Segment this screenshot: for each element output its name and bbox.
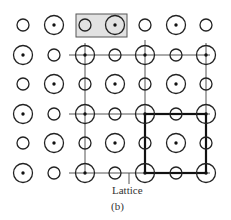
atom-center-dot (83, 112, 86, 115)
atom-center-dot (83, 53, 86, 56)
atom-center-dot (204, 53, 207, 56)
small-atom (139, 19, 151, 31)
atom-center-dot (52, 23, 55, 26)
atom-center-dot (174, 23, 177, 26)
atom-center-dot (52, 82, 55, 85)
small-atom (17, 78, 29, 90)
small-atom (200, 19, 212, 31)
atoms (14, 16, 216, 183)
small-atom (17, 19, 29, 31)
atom-center-dot (52, 141, 55, 144)
atom-center-dot (143, 112, 146, 115)
figure-caption: (b) (111, 200, 124, 212)
atom-center-dot (21, 171, 24, 174)
atom-center-dot (204, 112, 207, 115)
small-atom (48, 49, 60, 61)
atom-center-dot (174, 141, 177, 144)
atom-center-dot (21, 53, 24, 56)
atom-center-dot (21, 112, 24, 115)
atom-center-dot (83, 171, 86, 174)
atom-center-dot (143, 53, 146, 56)
small-atom (48, 108, 60, 120)
atom-center-dot (174, 82, 177, 85)
atom-center-dot (204, 171, 207, 174)
small-atom (17, 137, 29, 149)
lattice-label: Lattice (112, 184, 143, 196)
lattice-lines (69, 40, 210, 184)
atom-center-dot (113, 23, 116, 26)
atom-center-dot (113, 82, 116, 85)
small-atom (48, 167, 60, 179)
atom-center-dot (143, 171, 146, 174)
atom-center-dot (113, 141, 116, 144)
